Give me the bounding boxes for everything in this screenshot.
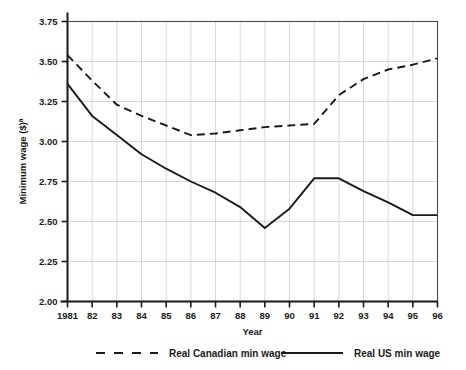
- y-axis-tick-label: 3.75: [39, 16, 58, 27]
- y-axis-title-group: Minimum wage ($)a: [17, 118, 29, 204]
- y-axis-tick-label: 2.50: [39, 216, 58, 227]
- legend-label: Real Canadian min wage: [169, 348, 287, 359]
- legend-item: Real US min wage: [281, 348, 441, 359]
- y-axis-tick-label: 3.50: [39, 56, 58, 67]
- x-axis-tick-label: 90: [284, 310, 295, 321]
- y-axis-tick-label: 2.75: [39, 176, 58, 187]
- x-axis-tick-label: 88: [235, 310, 246, 321]
- chart-canvas: 2.002.252.502.753.003.253.503.75 1981828…: [0, 0, 466, 370]
- legend-label: Real US min wage: [354, 348, 441, 359]
- x-axis-tick-label: 94: [383, 310, 394, 321]
- x-axis-tick-label: 89: [260, 310, 271, 321]
- y-axis-title: Minimum wage ($)a: [17, 118, 29, 204]
- x-axis-tick-label: 83: [112, 310, 123, 321]
- x-axis-tick-label: 95: [408, 310, 419, 321]
- x-axis-tick-label: 93: [358, 310, 369, 321]
- y-axis-tick-label: 2.25: [39, 256, 58, 267]
- plot-area-border: [68, 22, 438, 302]
- y-axis-tick-label: 2.00: [39, 296, 58, 307]
- y-axis-tick-label: 3.25: [39, 96, 58, 107]
- x-axis-tick-label: 86: [186, 310, 197, 321]
- y-axis: 2.002.252.502.753.003.253.503.75: [39, 16, 68, 307]
- x-axis: 1981828384858687888990919293949596: [57, 302, 443, 321]
- x-axis-tick-label: 1981: [57, 310, 79, 321]
- series-line-canadian: [68, 55, 438, 135]
- x-axis-title: Year: [242, 326, 262, 337]
- chart-legend: Real Canadian min wageReal US min wage: [96, 348, 441, 359]
- legend-item: Real Canadian min wage: [96, 348, 287, 359]
- minimum-wage-line-chart: 2.002.252.502.753.003.253.503.75 1981828…: [0, 0, 466, 370]
- series-line-us: [68, 84, 438, 228]
- x-axis-tick-label: 96: [432, 310, 443, 321]
- x-axis-tick-label: 91: [309, 310, 320, 321]
- x-axis-tick-label: 85: [161, 310, 172, 321]
- x-axis-tick-label: 87: [210, 310, 221, 321]
- x-axis-tick-label: 84: [136, 310, 147, 321]
- x-axis-tick-label: 92: [334, 310, 345, 321]
- y-axis-tick-label: 3.00: [39, 136, 58, 147]
- x-axis-tick-label: 82: [87, 310, 98, 321]
- gridlines: [68, 22, 438, 302]
